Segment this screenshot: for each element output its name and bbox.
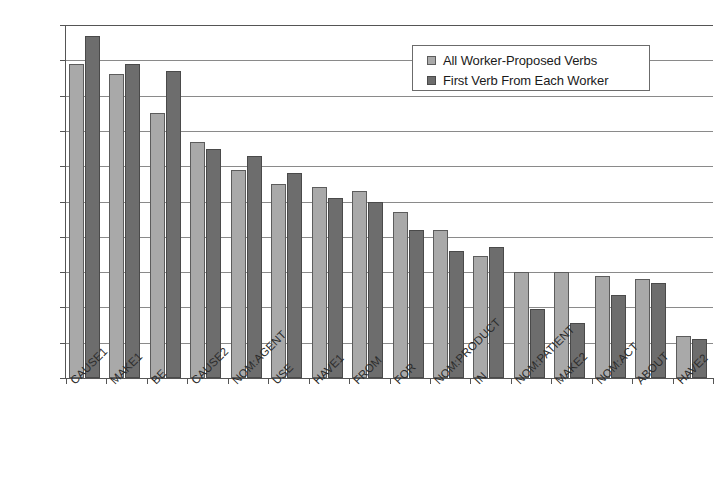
- legend-item-1: First Verb From Each Worker: [427, 72, 649, 89]
- bar-cause1-series-1: [85, 36, 100, 378]
- x-tick-mark: [713, 378, 714, 384]
- bar-group-have2: [673, 25, 713, 378]
- bar-group-cause2: [187, 25, 227, 378]
- bar-be-series-1: [166, 71, 181, 378]
- bar-nom-patient-series-0: [514, 272, 529, 378]
- bar-group-nom-agent: [228, 25, 268, 378]
- bar-from-series-0: [352, 191, 367, 378]
- bar-use-series-1: [287, 173, 302, 378]
- bar-have1-series-0: [312, 187, 327, 378]
- bar-for-series-1: [409, 230, 424, 378]
- bar-in-series-0: [473, 256, 488, 378]
- bar-group-be: [147, 25, 187, 378]
- bar-for-series-0: [393, 212, 408, 378]
- legend-swatch-icon-series-0: [427, 56, 436, 65]
- legend-swatch-icon-series-1: [427, 76, 436, 85]
- bar-group-use: [268, 25, 308, 378]
- bar-cause2-series-1: [206, 149, 221, 378]
- bar-make1-series-1: [125, 64, 140, 378]
- legend-label-series-1: First Verb From Each Worker: [443, 73, 608, 88]
- bar-in-series-1: [489, 247, 504, 378]
- bar-from-series-1: [368, 202, 383, 379]
- bar-group-make1: [106, 25, 146, 378]
- bar-make1-series-0: [109, 74, 124, 378]
- bar-group-from: [349, 25, 389, 378]
- x-axis-labels: CAUSE1MAKE1BECAUSE2NOM:AGENTUSEHAVE1FROM…: [65, 378, 712, 489]
- bar-group-have1: [309, 25, 349, 378]
- bar-have1-series-1: [328, 198, 343, 378]
- bar-nom-agent-series-0: [231, 170, 246, 378]
- bar-nom-agent-series-1: [247, 156, 262, 378]
- bar-chart: 100%90%80%70%60%50%40%30%20%10%0% CAUSE1…: [0, 0, 727, 489]
- legend-label-series-0: All Worker-Proposed Verbs: [443, 53, 597, 68]
- chart-legend: All Worker-Proposed Verbs First Verb Fro…: [412, 45, 650, 91]
- bar-group-cause1: [66, 25, 106, 378]
- bar-cause2-series-0: [190, 142, 205, 379]
- bar-nom-product-series-0: [433, 230, 448, 378]
- bar-be-series-0: [150, 113, 165, 378]
- legend-item-0: All Worker-Proposed Verbs: [427, 52, 649, 69]
- bar-cause1-series-0: [69, 64, 84, 378]
